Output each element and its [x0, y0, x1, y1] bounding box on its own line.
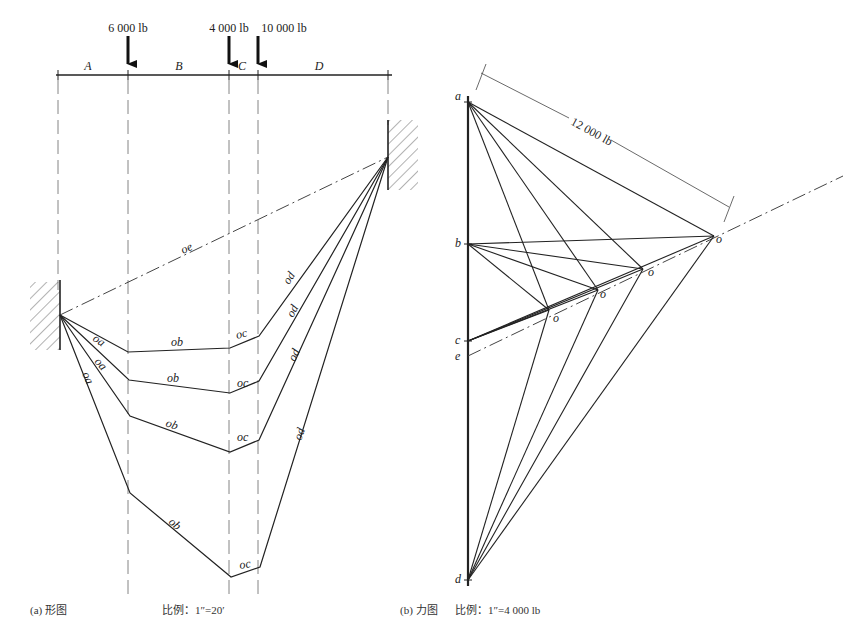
label-oc-1: oc — [234, 325, 249, 342]
caption-force-diagram: (b) 力图 — [400, 601, 438, 617]
scale-force-diagram: 比例：1″=4 000 lb — [455, 601, 540, 617]
rays — [468, 102, 714, 580]
load-label-1: 6 000 lb — [108, 21, 147, 35]
graphic-statics-figure: 6 000 lb 4 000 lb 10 000 lb A B C D oe o… — [0, 0, 843, 643]
label-oc-2: oc — [237, 376, 249, 390]
scale-form-diagram: 比例：1″=20′ — [162, 601, 225, 617]
pole-o-4: o — [553, 311, 559, 325]
force-diagram: 12 000 lb a — [455, 64, 843, 586]
point-d: d — [455, 572, 462, 586]
funicular-2 — [60, 157, 388, 393]
funicular-polygons — [60, 157, 388, 577]
dimension-label: 12 000 lb — [569, 114, 615, 148]
label-od-2: od — [283, 301, 301, 319]
point-b: b — [455, 236, 461, 250]
label-ob-3: ob — [164, 416, 180, 433]
right-support — [388, 120, 418, 190]
point-e: e — [455, 349, 461, 363]
space-label-d: D — [314, 59, 324, 73]
pole-o-2: o — [648, 265, 654, 279]
pole-o-1: o — [716, 232, 722, 246]
label-oc-3: oc — [237, 430, 249, 444]
label-od-4: od — [291, 425, 309, 442]
load-label-3: 10 000 lb — [261, 21, 306, 35]
space-label-a: A — [83, 59, 92, 73]
funicular-4 — [60, 157, 388, 577]
point-a: a — [455, 89, 461, 103]
funicular-3 — [60, 157, 388, 452]
label-oc-4: oc — [238, 556, 252, 572]
pole-o-3: o — [600, 287, 606, 301]
space-label-b: B — [175, 59, 183, 73]
form-diagram: 6 000 lb 4 000 lb 10 000 lb A B C D oe o… — [30, 21, 418, 595]
point-c: c — [455, 333, 461, 347]
space-label-c: C — [238, 59, 247, 73]
caption-form-diagram: (a) 形图 — [30, 601, 67, 617]
closing-line-oe — [60, 157, 388, 315]
label-oa-2: oa — [92, 355, 110, 373]
label-oe: oe — [178, 239, 195, 257]
load-label-2: 4 000 lb — [209, 21, 248, 35]
label-od-1: od — [280, 268, 299, 286]
closing-ray — [468, 176, 843, 356]
funicular-1 — [60, 157, 388, 352]
label-ob-2: ob — [167, 371, 179, 385]
label-ob-4: ob — [166, 515, 184, 533]
label-ob-1: ob — [171, 335, 183, 349]
left-support — [30, 280, 60, 350]
